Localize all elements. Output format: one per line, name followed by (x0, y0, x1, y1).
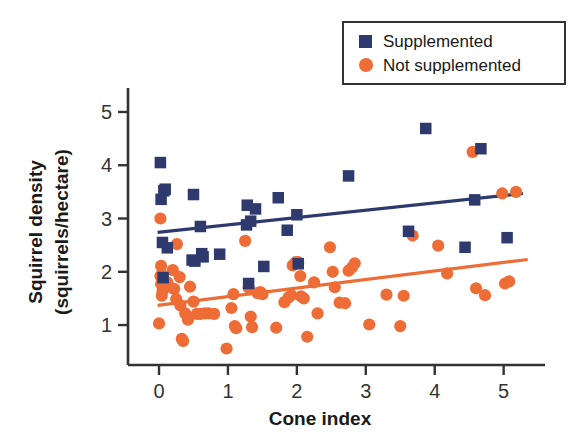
data-point-square (243, 278, 255, 290)
data-point-circle (174, 271, 186, 283)
data-point-circle (225, 302, 237, 314)
y-tick-label: 3 (101, 208, 112, 230)
data-point-square (214, 248, 226, 260)
data-point-square (250, 203, 262, 215)
data-point-circle (398, 290, 410, 302)
data-point-circle (441, 267, 453, 279)
data-point-square (281, 224, 293, 236)
y-tick-label: 4 (101, 154, 112, 176)
data-point-circle (245, 310, 257, 322)
data-point-circle (327, 266, 339, 278)
chart-legend: Supplemented Not supplemented (343, 22, 565, 84)
data-point-circle (479, 289, 491, 301)
data-point-circle (270, 322, 282, 334)
data-point-circle (394, 320, 406, 332)
data-point-circle (230, 322, 242, 334)
data-point-square (291, 209, 303, 221)
data-point-square (469, 194, 481, 206)
data-point-square (245, 215, 257, 227)
data-point-circle (349, 257, 361, 269)
data-point-circle (339, 297, 351, 309)
data-point-circle (208, 308, 220, 320)
data-point-circle (246, 321, 258, 333)
data-point-square (403, 226, 415, 238)
data-point-circle (256, 288, 268, 300)
data-point-square (475, 143, 487, 155)
y-tick-label: 1 (101, 314, 112, 336)
x-tick-label: 3 (360, 380, 371, 402)
data-point-square (273, 192, 285, 204)
legend-label-supplemented: Supplemented (383, 32, 493, 51)
data-point-circle (308, 276, 320, 288)
data-point-circle (298, 292, 310, 304)
data-point-circle (154, 212, 166, 224)
data-point-square (258, 261, 270, 273)
data-point-square (292, 258, 304, 270)
x-tick-label: 5 (498, 380, 509, 402)
data-point-circle (220, 342, 232, 354)
x-tick-label: 1 (222, 380, 233, 402)
data-point-square (420, 123, 432, 135)
data-point-circle (184, 281, 196, 293)
data-point-square (197, 251, 209, 263)
data-point-circle (227, 288, 239, 300)
x-tick-label: 0 (153, 380, 164, 402)
data-point-square (188, 189, 200, 201)
data-point-circle (153, 317, 165, 329)
data-point-circle (503, 275, 515, 287)
y-tick-label: 2 (101, 261, 112, 283)
data-point-circle (168, 283, 180, 295)
squirrel-density-scatter-chart: 12345 012345 Squirrel density (squirrels… (0, 0, 575, 440)
data-point-circle (177, 335, 189, 347)
y-axis-title-line1: Squirrel density (25, 160, 46, 304)
y-tick-label: 5 (101, 101, 112, 123)
x-tick-label: 2 (291, 380, 302, 402)
legend-marker-supplemented-square-icon (359, 35, 372, 48)
data-point-square (159, 183, 171, 195)
data-point-circle (311, 307, 323, 319)
y-axis-title-line2: (squirrels/hectare) (51, 149, 72, 315)
data-point-circle (380, 289, 392, 301)
data-point-square (195, 221, 207, 233)
data-point-circle (239, 235, 251, 247)
data-point-square (157, 272, 169, 284)
data-point-square (343, 170, 355, 182)
data-point-circle (329, 281, 341, 293)
legend-label-not-supplemented: Not supplemented (383, 56, 521, 75)
data-point-circle (324, 241, 336, 253)
data-point-circle (432, 240, 444, 252)
data-point-square (501, 232, 513, 244)
data-point-circle (187, 296, 199, 308)
data-point-circle (294, 270, 306, 282)
data-point-circle (301, 331, 313, 343)
x-axis-title: Cone index (269, 408, 372, 429)
legend-marker-not-supplemented-circle-icon (359, 58, 373, 72)
data-point-circle (363, 318, 375, 330)
data-point-square (155, 157, 167, 169)
data-point-square (162, 242, 174, 254)
x-tick-label: 4 (429, 380, 440, 402)
data-point-circle (496, 187, 508, 199)
data-point-square (459, 242, 471, 254)
data-point-circle (510, 186, 522, 198)
